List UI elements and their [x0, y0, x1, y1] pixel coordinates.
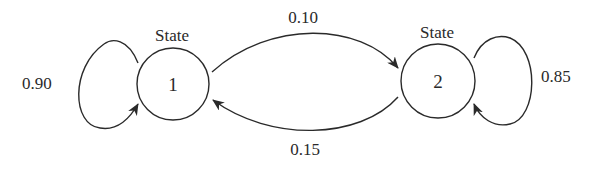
- probability-1-to-2: 0.10: [288, 8, 318, 27]
- edge-2-to-2: [474, 37, 532, 125]
- state-1-caption: State: [155, 26, 189, 45]
- state-2-label: 2: [433, 71, 443, 92]
- state-node-2: 2 State: [401, 23, 475, 118]
- markov-chain-diagram: 1 State 2 State 0.90 0.10 0.15 0.85: [0, 0, 601, 170]
- edge-1-to-2: [212, 33, 398, 72]
- edge-1-to-1: [79, 41, 138, 129]
- state-2-caption: State: [420, 23, 454, 42]
- state-node-1: 1 State: [137, 26, 209, 120]
- probability-2-to-2: 0.85: [541, 67, 571, 86]
- state-1-label: 1: [168, 74, 178, 95]
- probability-2-to-1: 0.15: [290, 140, 320, 159]
- edge-2-to-1: [213, 97, 398, 130]
- probability-1-to-1: 0.90: [22, 74, 52, 93]
